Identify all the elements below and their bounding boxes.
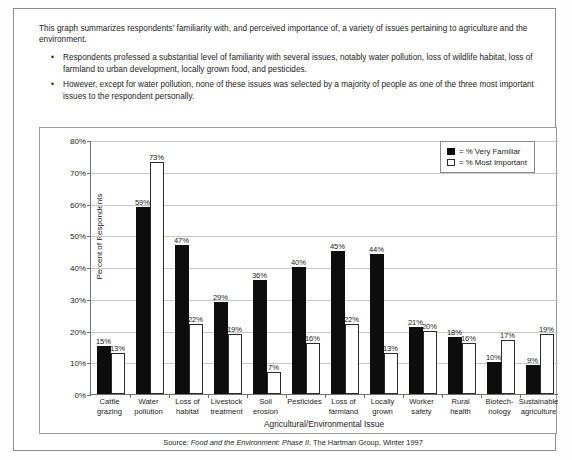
intro-paragraph: This graph summarizes respondents’ famil…	[39, 23, 547, 45]
y-axis-tick-label: 60%	[70, 200, 86, 209]
legend-label: = % Very Familiar	[459, 146, 520, 157]
bar-group: 21%20%	[403, 141, 442, 394]
bar-very-familiar[interactable]: 21%	[409, 327, 423, 394]
bar-value-label: 7%	[268, 363, 279, 372]
y-axis-tick-label: 70%	[70, 168, 86, 177]
bar-value-label: 22%	[188, 315, 203, 324]
bar-very-familiar[interactable]: 9%	[526, 365, 540, 394]
y-axis-tick-label: 20%	[70, 327, 86, 336]
bar-most-important[interactable]: 22%	[189, 324, 203, 394]
source-prefix: Source:	[163, 438, 191, 447]
bar-most-important[interactable]: 19%	[540, 334, 554, 394]
plot-area: 0%10%20%30%40%50%60%70%80% 15%13%59%73%4…	[90, 141, 558, 395]
bar-very-familiar[interactable]: 45%	[331, 251, 345, 394]
bullet-glyph-icon: •	[51, 52, 54, 63]
bar-value-label: 45%	[330, 242, 345, 251]
bar-chart: Percent of Respondents 0%10%20%30%40%50%…	[39, 127, 557, 434]
bar-value-label: 13%	[110, 344, 125, 353]
bar-value-label: 16%	[461, 334, 476, 343]
bar-very-familiar[interactable]: 18%	[448, 337, 462, 394]
bar-very-familiar[interactable]: 36%	[253, 280, 267, 394]
x-axis-tick-label-line: agriculture	[515, 407, 562, 417]
bar-value-label: 40%	[291, 258, 306, 267]
y-axis-tick-label: 80%	[70, 137, 86, 146]
bar-value-label: 36%	[252, 271, 267, 280]
document-frame: This graph summarizes respondents’ famil…	[13, 8, 556, 451]
bar-group: 59%73%	[130, 141, 169, 394]
bar-value-label: 16%	[305, 334, 320, 343]
y-axis-tick-mark	[87, 395, 91, 396]
legend-item-most-important: = % Most Important	[447, 157, 527, 168]
bar-most-important[interactable]: 22%	[345, 324, 359, 394]
bar-very-familiar[interactable]: 47%	[175, 245, 189, 394]
bar-value-label: 20%	[422, 322, 437, 331]
bar-value-label: 47%	[174, 236, 189, 245]
bar-most-important[interactable]: 16%	[306, 343, 320, 394]
y-axis-tick-label: 0%	[74, 391, 86, 400]
bar-value-label: 17%	[500, 331, 515, 340]
bar-most-important[interactable]: 19%	[228, 334, 242, 394]
legend-label: = % Most Important	[459, 157, 527, 168]
y-axis-tick-label: 40%	[70, 264, 86, 273]
source-note: Source: Food and the Environment: Phase …	[39, 438, 547, 447]
bullet-text: However, except for water pollution, non…	[63, 80, 534, 100]
x-axis-tick-label-line: erosion	[242, 407, 289, 417]
bar-value-label: 15%	[96, 337, 111, 346]
bar-most-important[interactable]: 13%	[111, 353, 125, 394]
bullet-list: • Respondents professed a substantial le…	[39, 52, 547, 102]
bar-most-important[interactable]: 7%	[267, 372, 281, 394]
source-suffix: , The Hartman Group, Winter 1997	[309, 438, 423, 447]
x-axis-tick-label: Sustainableagriculture	[515, 397, 562, 416]
bullet-glyph-icon: •	[51, 79, 54, 90]
bar-group: 40%16%	[286, 141, 325, 394]
bar-group: 45%22%	[325, 141, 364, 394]
bar-group: 36%7%	[247, 141, 286, 394]
bar-value-label: 19%	[227, 325, 242, 334]
chart-legend: = % Very Familiar = % Most Important	[440, 141, 535, 173]
bar-group: 44%13%	[364, 141, 403, 394]
bar-group: 9%19%	[520, 141, 559, 394]
y-axis-tick-label: 30%	[70, 295, 86, 304]
bar-group: 10%17%	[481, 141, 520, 394]
bar-value-label: 22%	[344, 315, 359, 324]
bar-value-label: 9%	[527, 356, 538, 365]
bar-very-familiar[interactable]: 29%	[214, 302, 228, 394]
bar-value-label: 18%	[447, 328, 462, 337]
list-item: • Respondents professed a substantial le…	[39, 52, 547, 75]
x-axis-title: Agricultural/Environmental Issue	[90, 419, 558, 429]
bar-value-label: 44%	[369, 245, 384, 254]
x-axis-tick-label-line: Sustainable	[515, 397, 562, 407]
bar-value-label: 10%	[486, 353, 501, 362]
bar-group: 18%16%	[442, 141, 481, 394]
bar-groups: 15%13%59%73%47%22%29%19%36%7%40%16%45%22…	[91, 141, 558, 394]
bar-value-label: 19%	[539, 325, 554, 334]
bar-most-important[interactable]: 17%	[501, 340, 515, 394]
bar-most-important[interactable]: 13%	[384, 353, 398, 394]
bar-value-label: 59%	[135, 198, 150, 207]
bar-value-label: 21%	[408, 318, 423, 327]
legend-item-very-familiar: = % Very Familiar	[447, 146, 527, 157]
bullet-text: Respondents professed a substantial leve…	[63, 53, 533, 73]
bar-value-label: 13%	[383, 344, 398, 353]
bar-most-important[interactable]: 16%	[462, 343, 476, 394]
bar-group: 15%13%	[91, 141, 130, 394]
bar-very-familiar[interactable]: 44%	[370, 254, 384, 394]
intro-text-block: This graph summarizes respondents’ famil…	[39, 23, 547, 106]
screenshot-page: This graph summarizes respondents’ famil…	[0, 0, 572, 460]
bar-group: 47%22%	[169, 141, 208, 394]
list-item: • However, except for water pollution, n…	[39, 79, 547, 102]
source-title: Food and the Environment: Phase II	[191, 438, 309, 447]
bar-very-familiar[interactable]: 59%	[136, 207, 150, 394]
bar-very-familiar[interactable]: 40%	[292, 267, 306, 394]
legend-swatch-hollow-icon	[447, 159, 455, 166]
bar-very-familiar[interactable]: 10%	[487, 362, 501, 394]
y-axis-tick-label: 10%	[70, 359, 86, 368]
bar-most-important[interactable]: 20%	[423, 331, 437, 395]
y-axis-tick-label: 50%	[70, 232, 86, 241]
bar-value-label: 73%	[149, 153, 164, 162]
bar-very-familiar[interactable]: 15%	[97, 346, 111, 394]
bar-value-label: 29%	[213, 293, 228, 302]
bar-group: 29%19%	[208, 141, 247, 394]
legend-swatch-filled-icon	[447, 148, 455, 155]
bar-most-important[interactable]: 73%	[150, 162, 164, 394]
